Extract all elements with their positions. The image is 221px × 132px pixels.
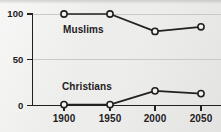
series-line-christians — [64, 91, 201, 105]
marker-muslims-2000 — [152, 28, 158, 34]
x-axis-label-2050: 2050 — [179, 114, 221, 124]
x-axis-label-1950: 1950 — [88, 114, 132, 124]
series-label-christians: Christians — [62, 82, 112, 92]
marker-muslims-1950 — [107, 11, 113, 17]
marker-christians-1900 — [61, 101, 67, 107]
marker-muslims-2050 — [198, 24, 204, 30]
x-axis-label-1900: 1900 — [42, 114, 86, 124]
series-label-muslims: Muslims — [63, 25, 104, 35]
y-axis-label-100: 100 — [0, 9, 24, 19]
axis-ticks — [27, 14, 201, 111]
y-axis-label-0: 0 — [0, 101, 24, 111]
marker-muslims-1900 — [61, 11, 67, 17]
x-axis-label-2000: 2000 — [133, 114, 177, 124]
marker-christians-2000 — [152, 88, 158, 94]
marker-christians-1950 — [107, 101, 113, 107]
y-axis-label-50: 50 — [0, 55, 24, 65]
marker-christians-2050 — [198, 91, 204, 97]
